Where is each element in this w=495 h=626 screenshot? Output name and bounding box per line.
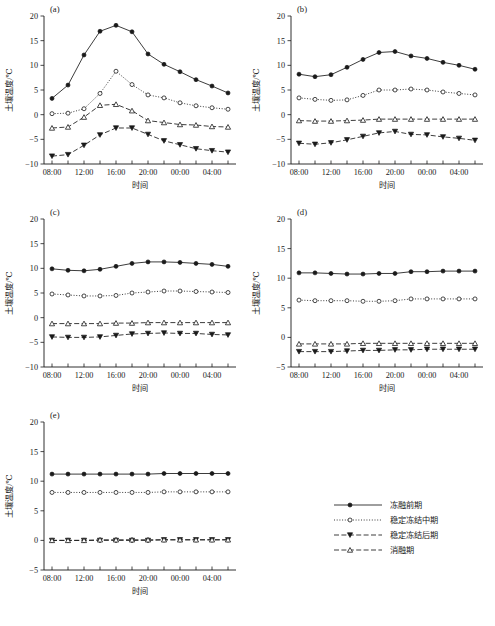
- series-line: [52, 474, 228, 475]
- series-marker: [329, 271, 333, 275]
- series-marker: [178, 289, 182, 293]
- series-marker: [50, 112, 54, 116]
- figure-soil-temperature: (a)−10−50510152008:0012:0016:0020:0000:0…: [0, 0, 495, 626]
- series-marker: [114, 293, 118, 297]
- series-line: [299, 299, 475, 301]
- series-marker: [162, 472, 166, 476]
- series-marker: [409, 297, 413, 301]
- series-marker: [457, 269, 461, 273]
- series-marker: [81, 143, 86, 148]
- series-marker: [82, 490, 86, 494]
- x-tick-label: 00:00: [171, 574, 190, 583]
- series-marker: [98, 267, 102, 271]
- series-line: [299, 119, 475, 121]
- series-marker: [146, 472, 150, 476]
- series-marker: [162, 260, 166, 264]
- series-marker: [425, 297, 429, 301]
- x-tick-label: 04:00: [450, 371, 469, 380]
- series-marker: [50, 96, 54, 100]
- y-tick-label: 20: [30, 12, 38, 21]
- y-tick-label: 0: [281, 111, 285, 120]
- x-tick-label: 16:00: [107, 168, 126, 177]
- series-marker: [473, 67, 477, 71]
- series-marker: [50, 292, 54, 296]
- series-marker: [82, 269, 86, 273]
- series-line: [299, 271, 475, 274]
- y-tick-label: 15: [30, 240, 38, 249]
- series-marker: [50, 472, 54, 476]
- series-marker: [146, 93, 150, 97]
- series-line: [52, 323, 228, 324]
- series-marker: [66, 83, 70, 87]
- series-marker: [393, 271, 397, 275]
- x-tick-label: 00:00: [171, 168, 190, 177]
- series-marker: [226, 490, 230, 494]
- y-tick-label: 0: [34, 111, 38, 120]
- x-axis-label: 时间: [132, 383, 148, 393]
- y-tick-label: 5: [34, 289, 38, 298]
- x-tick-label: 04:00: [450, 168, 469, 177]
- series-line: [52, 540, 228, 541]
- panel-e: (e)−50510152008:0012:0016:0020:0000:0004…: [0, 406, 248, 621]
- series-marker: [472, 138, 477, 143]
- x-tick-label: 20:00: [386, 371, 405, 380]
- x-tick-label: 00:00: [418, 371, 437, 380]
- series-marker: [329, 73, 333, 77]
- x-tick-label: 04:00: [203, 371, 222, 380]
- series-line: [299, 349, 475, 351]
- y-tick-label: 20: [277, 215, 285, 224]
- panel-label: (a): [50, 4, 60, 14]
- y-tick-label: 20: [277, 12, 285, 21]
- series-marker: [226, 91, 230, 95]
- panel-label: (e): [50, 410, 60, 420]
- series-marker: [377, 299, 381, 303]
- series-marker: [114, 472, 118, 476]
- series-marker: [393, 299, 397, 303]
- series-marker: [297, 96, 301, 100]
- series-marker: [98, 91, 102, 95]
- series-line: [52, 291, 228, 296]
- series-marker: [162, 62, 166, 66]
- axis-lines: [44, 16, 236, 164]
- series-marker: [313, 299, 317, 303]
- legend-label: 冻融前期: [390, 500, 422, 510]
- x-axis-label: 时间: [132, 586, 148, 596]
- series-marker: [473, 93, 477, 97]
- x-tick-label: 16:00: [354, 371, 373, 380]
- series-marker: [345, 272, 349, 276]
- series-marker: [313, 271, 317, 275]
- y-tick-label: −5: [29, 135, 38, 144]
- series-marker: [50, 490, 54, 494]
- series-line: [299, 52, 475, 77]
- y-tick-label: 15: [30, 448, 38, 457]
- y-tick-label: −5: [29, 566, 38, 575]
- series-marker: [146, 52, 150, 56]
- series-marker: [409, 270, 413, 274]
- y-tick-label: 10: [30, 477, 38, 486]
- x-tick-label: 08:00: [43, 574, 62, 583]
- series-marker: [162, 289, 166, 293]
- x-tick-label: 04:00: [203, 574, 222, 583]
- y-axis-label: 土壤温度/℃: [4, 474, 14, 517]
- x-tick-label: 16:00: [107, 574, 126, 583]
- panel-a: (a)−10−50510152008:0012:0016:0020:0000:0…: [0, 0, 248, 200]
- x-tick-label: 20:00: [139, 574, 158, 583]
- series-marker: [178, 70, 182, 74]
- y-tick-label: −5: [276, 363, 285, 372]
- y-axis-label: 土壤温度/℃: [251, 68, 261, 111]
- series-marker: [409, 54, 413, 58]
- series-marker: [146, 260, 150, 264]
- series-marker: [178, 490, 182, 494]
- legend-label: 稳定冻结中期: [390, 515, 438, 525]
- series-marker: [114, 69, 118, 73]
- x-axis-label: 时间: [379, 180, 395, 190]
- x-tick-label: 20:00: [139, 168, 158, 177]
- x-tick-label: 12:00: [75, 574, 94, 583]
- series-marker: [66, 472, 70, 476]
- series-marker: [393, 88, 397, 92]
- x-tick-label: 08:00: [43, 168, 62, 177]
- series-marker: [194, 104, 198, 108]
- series-marker: [177, 143, 182, 148]
- y-tick-label: 0: [34, 314, 38, 323]
- series-marker: [194, 261, 198, 265]
